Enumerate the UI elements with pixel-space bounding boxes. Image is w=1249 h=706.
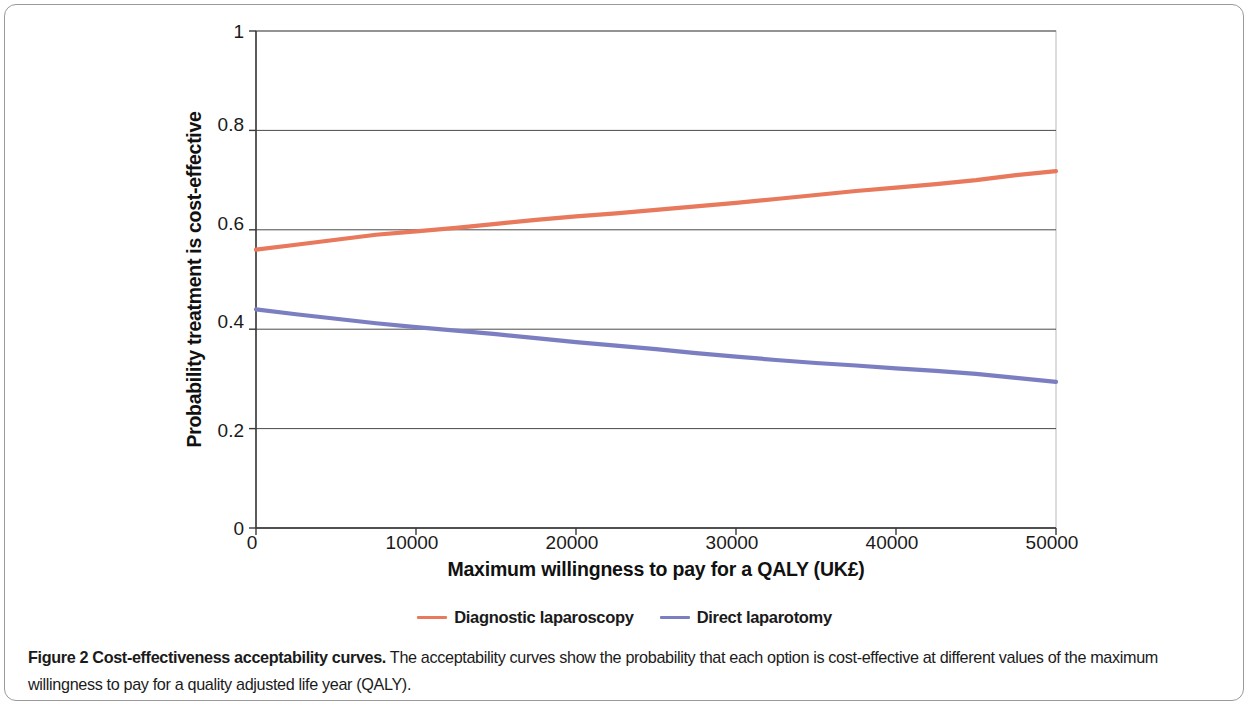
figure-2-container: 1 0.8 0.6 0.4 0.2 0 0 10000 20000 30000 … xyxy=(0,0,1249,706)
legend-line-swatch-icon xyxy=(660,616,690,620)
x-tick-label-20000: 20000 xyxy=(532,532,612,554)
series-line-diagnostic-laparoscopy xyxy=(256,171,1056,250)
series-line-direct-laparotomy xyxy=(256,309,1056,382)
x-axis-title: Maximum willingness to pay for a QALY (U… xyxy=(256,558,1056,581)
figure-caption-title: Figure 2 Cost-effectiveness acceptabilit… xyxy=(28,648,386,666)
plot-frame xyxy=(256,31,1056,528)
legend-entry-diagnostic-laparoscopy: Diagnostic laparoscopy xyxy=(417,608,634,627)
chart-legend: Diagnostic laparoscopy Direct laparotomy xyxy=(0,608,1249,627)
x-tick-label-50000: 50000 xyxy=(1012,532,1092,554)
x-tick-label-40000: 40000 xyxy=(852,532,932,554)
x-tick-label-30000: 30000 xyxy=(692,532,772,554)
y-axis-title: Probability treatment is cost-effective xyxy=(183,70,206,490)
y-tick-label-1: 1 xyxy=(196,21,244,43)
chart-plot-area: 1 0.8 0.6 0.4 0.2 0 0 10000 20000 30000 … xyxy=(0,0,1249,640)
legend-entry-direct-laparotomy: Direct laparotomy xyxy=(660,608,832,627)
legend-label-diagnostic-laparoscopy: Diagnostic laparoscopy xyxy=(454,608,634,627)
x-tick-label-0: 0 xyxy=(212,532,292,554)
legend-line-swatch-icon xyxy=(417,616,447,620)
x-tick-label-10000: 10000 xyxy=(372,532,452,554)
figure-caption: Figure 2 Cost-effectiveness acceptabilit… xyxy=(28,644,1218,697)
legend-label-direct-laparotomy: Direct laparotomy xyxy=(697,608,832,627)
